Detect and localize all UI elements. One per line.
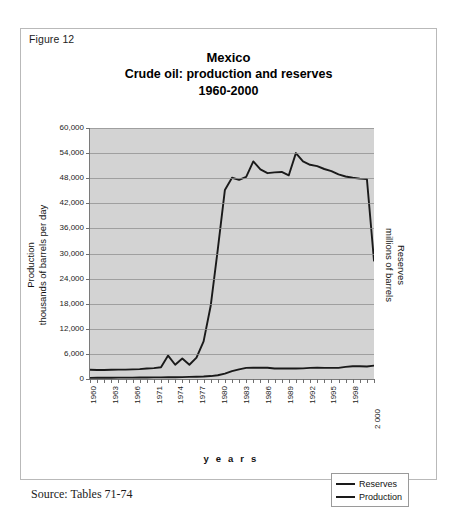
gridline bbox=[90, 254, 374, 255]
x-axis-tick bbox=[331, 379, 332, 383]
x-axis-tick bbox=[339, 379, 340, 383]
y-axis-tick-label: 54,000 bbox=[60, 149, 84, 157]
legend-item-label: Reserves bbox=[359, 479, 397, 489]
y-axis-tick-label: 6,000 bbox=[64, 350, 84, 358]
x-axis-tick bbox=[147, 379, 148, 383]
source-note: Source: Tables 71-74 bbox=[31, 487, 133, 502]
x-axis-tick bbox=[161, 379, 162, 383]
y-axis-tick-label: 30,000 bbox=[60, 250, 84, 258]
x-axis-tick bbox=[275, 379, 276, 383]
x-axis-tick bbox=[353, 379, 354, 383]
y-axis-tick bbox=[86, 354, 90, 355]
legend-item-label: Production bbox=[359, 492, 402, 502]
y-axis-tick bbox=[86, 329, 90, 330]
x-axis-tick bbox=[218, 379, 219, 383]
x-axis-tick-label: 1966 bbox=[134, 386, 142, 404]
x-axis-tick bbox=[225, 379, 226, 383]
y-axis-left-title-line-2: thousands of barrels per day bbox=[37, 165, 49, 365]
x-axis-tick-label: 1989 bbox=[287, 386, 295, 404]
y-axis-left-title-line-1: Production bbox=[25, 165, 37, 365]
x-axis-tick bbox=[197, 379, 198, 383]
x-axis-tick bbox=[253, 379, 254, 383]
x-axis-tick bbox=[182, 379, 183, 383]
figure-container: Figure 12 Mexico Crude oil: production a… bbox=[20, 28, 437, 480]
x-axis-tick bbox=[310, 379, 311, 383]
x-axis-tick bbox=[118, 379, 119, 383]
x-axis-tick-label: 2 000 bbox=[374, 409, 382, 429]
x-axis-tick bbox=[324, 379, 325, 383]
x-axis-tick-label: 1980 bbox=[221, 386, 229, 404]
y-axis-tick bbox=[86, 153, 90, 154]
x-axis-tick bbox=[374, 379, 375, 383]
y-axis-tick-label: 36,000 bbox=[60, 224, 84, 232]
x-axis-tick bbox=[104, 379, 105, 383]
gridline bbox=[90, 128, 374, 129]
gridline bbox=[90, 304, 374, 305]
x-axis-tick bbox=[140, 379, 141, 383]
x-axis-tick-label: 1998 bbox=[352, 386, 360, 404]
y-axis-tick bbox=[86, 279, 90, 280]
x-axis-tick bbox=[260, 379, 261, 383]
gridline bbox=[90, 228, 374, 229]
y-axis-tick bbox=[86, 128, 90, 129]
x-axis-tick bbox=[239, 379, 240, 383]
x-axis-tick bbox=[168, 379, 169, 383]
x-axis-tick bbox=[268, 379, 269, 383]
x-axis-tick-label: 1971 bbox=[156, 386, 164, 404]
x-axis-tick bbox=[360, 379, 361, 383]
x-axis-tick bbox=[204, 379, 205, 383]
x-axis-tick bbox=[296, 379, 297, 383]
plot-area: 06,00012,00018,00024,00030,00036,00042,0… bbox=[89, 128, 374, 380]
y-axis-right-title-line-1: Reserves bbox=[395, 165, 407, 365]
y-axis-tick bbox=[86, 178, 90, 179]
x-axis-tick-label: 1986 bbox=[265, 386, 273, 404]
x-axis-tick bbox=[189, 379, 190, 383]
x-axis-title: y e a r s bbox=[89, 453, 373, 464]
x-axis-tick bbox=[232, 379, 233, 383]
x-axis-tick bbox=[289, 379, 290, 383]
x-axis-tick bbox=[90, 379, 91, 383]
x-axis-tick bbox=[303, 379, 304, 383]
x-axis-tick bbox=[154, 379, 155, 383]
gridline bbox=[90, 354, 374, 355]
y-axis-tick-label: 48,000 bbox=[60, 174, 84, 182]
x-axis-tick-label: 1992 bbox=[309, 386, 317, 404]
x-axis-tick bbox=[346, 379, 347, 383]
x-axis-tick bbox=[133, 379, 134, 383]
x-axis-tick bbox=[211, 379, 212, 383]
y-axis-tick-label: 60,000 bbox=[60, 124, 84, 132]
y-axis-right-title: Reserves millions of barrels bbox=[383, 165, 407, 365]
gridline bbox=[90, 279, 374, 280]
x-axis-tick bbox=[97, 379, 98, 383]
gridline bbox=[90, 329, 374, 330]
chart-legend: ReservesProduction bbox=[331, 473, 409, 507]
series-line-production bbox=[90, 366, 374, 378]
x-axis-tick-label: 1963 bbox=[112, 386, 120, 404]
plot-wrapper: 06,00012,00018,00024,00030,00036,00042,0… bbox=[21, 29, 436, 479]
y-axis-tick-label: 18,000 bbox=[60, 300, 84, 308]
x-axis-tick-label: 1977 bbox=[199, 386, 207, 404]
y-axis-tick bbox=[86, 228, 90, 229]
legend-line-swatch bbox=[336, 496, 355, 498]
x-axis-tick bbox=[246, 379, 247, 383]
series-line-reserves bbox=[90, 153, 374, 370]
y-axis-left-title: Production thousands of barrels per day bbox=[25, 165, 49, 365]
gridline bbox=[90, 178, 374, 179]
y-axis-tick-label: 12,000 bbox=[60, 325, 84, 333]
gridline bbox=[90, 203, 374, 204]
x-axis-tick bbox=[175, 379, 176, 383]
legend-item-production[interactable]: Production bbox=[336, 490, 402, 503]
y-axis-right-title-line-2: millions of barrels bbox=[383, 165, 395, 365]
x-axis-tick bbox=[317, 379, 318, 383]
x-axis-tick bbox=[126, 379, 127, 383]
x-axis-tick bbox=[367, 379, 368, 383]
x-axis-tick-label: 1983 bbox=[243, 386, 251, 404]
x-axis-tick-label: 1960 bbox=[90, 386, 98, 404]
y-axis-tick bbox=[86, 203, 90, 204]
x-axis-tick bbox=[111, 379, 112, 383]
legend-line-swatch bbox=[336, 483, 355, 485]
y-axis-tick bbox=[86, 254, 90, 255]
legend-item-reserves[interactable]: Reserves bbox=[336, 477, 402, 490]
y-axis-tick-label: 0 bbox=[80, 375, 84, 383]
y-axis-tick bbox=[86, 304, 90, 305]
